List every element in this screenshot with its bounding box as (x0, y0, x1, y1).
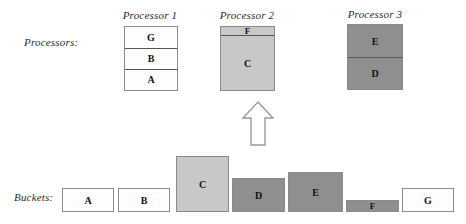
processor-1-segment-a: A (125, 69, 177, 90)
bucket-a: A (62, 188, 114, 212)
processor-2-segment-f: F (221, 27, 274, 35)
processors-row-label: Processors: (24, 36, 78, 48)
bucket-f: F (346, 200, 399, 212)
processor-1-segment-g: G (125, 27, 177, 48)
bucket-e: E (288, 172, 343, 212)
processor-2-title: Processor 2 (197, 9, 297, 21)
bucket-c: C (176, 156, 229, 212)
processor-3-segment-d: D (348, 57, 402, 89)
processor-1-stack: G B A (124, 26, 178, 91)
processor-3-stack: E D (347, 24, 403, 90)
processor-1-title: Processor 1 (100, 9, 200, 21)
bucket-d: D (232, 178, 285, 212)
bucket-b: B (118, 188, 170, 212)
buckets-row-label: Buckets: (14, 191, 53, 203)
processor-2-segment-c: C (221, 35, 274, 90)
processor-2-stack: F C (220, 26, 275, 91)
processor-3-title: Processor 3 (325, 8, 425, 20)
processor-1-segment-b: B (125, 48, 177, 69)
assignment-up-arrow-icon (240, 99, 276, 147)
processor-3-segment-e: E (348, 25, 402, 57)
diagram-canvas: Processors: Buckets: Processor 1 G B A P… (0, 0, 466, 224)
bucket-g: G (402, 188, 454, 212)
